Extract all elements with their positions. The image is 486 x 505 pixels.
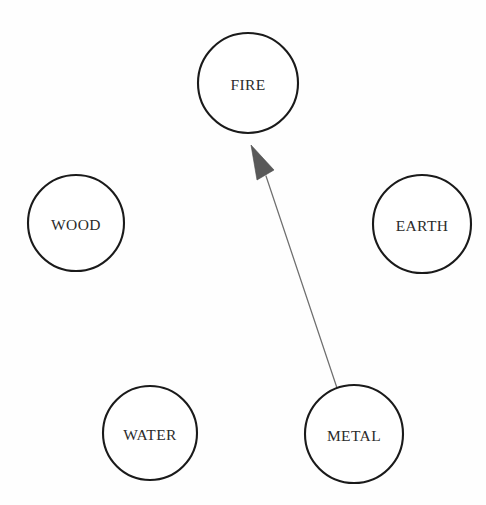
node-wood[interactable]: WOOD (28, 175, 124, 271)
edge-metal-to-fire[interactable] (251, 145, 337, 388)
node-earth[interactable]: EARTH (373, 175, 471, 273)
node-metal[interactable]: METAL (305, 385, 403, 483)
node-fire[interactable]: FIRE (198, 33, 298, 133)
node-label-fire: FIRE (230, 76, 265, 93)
node-label-water: WATER (123, 426, 177, 443)
node-label-wood: WOOD (51, 216, 101, 233)
edge-layer (251, 145, 337, 388)
node-label-metal: METAL (327, 427, 381, 444)
node-label-earth: EARTH (396, 217, 449, 234)
node-water[interactable]: WATER (103, 386, 197, 480)
diagram-svg: FIRE WOOD EARTH WATER METAL (0, 0, 486, 505)
node-layer: FIRE WOOD EARTH WATER METAL (28, 33, 471, 483)
diagram-canvas: FIRE WOOD EARTH WATER METAL (0, 0, 486, 505)
arrowhead-icon (251, 145, 274, 180)
edge-line-metal-to-fire (266, 176, 337, 388)
